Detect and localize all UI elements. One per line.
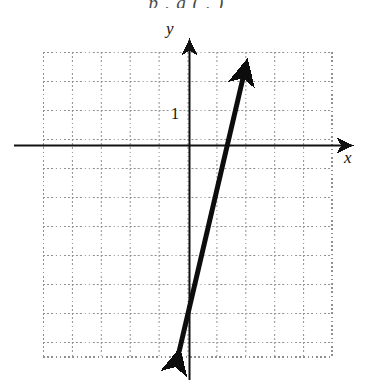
coordinate-plane-svg bbox=[0, 0, 373, 386]
x-axis-label: x bbox=[344, 148, 352, 168]
y-axis-label: y bbox=[166, 19, 174, 39]
unit-tick-label: 1 bbox=[171, 105, 179, 123]
figure-canvas: p , g ( , ) bbox=[0, 0, 373, 386]
